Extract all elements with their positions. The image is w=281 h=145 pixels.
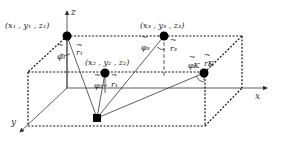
r-3-label: r₃ xyxy=(170,44,177,53)
r-1-label: r₁ xyxy=(76,48,83,57)
point-3 xyxy=(160,32,169,41)
point-3-label: (x₃ , y₃ , z₃) xyxy=(140,21,184,30)
x-axis-label: x xyxy=(255,91,260,101)
y-axis-label: y xyxy=(10,117,17,127)
r-k-label: rΚ xyxy=(204,59,215,68)
point-1 xyxy=(63,32,72,41)
phi-1-label: φ₁ xyxy=(57,52,66,61)
source-square xyxy=(93,114,101,122)
point-2 xyxy=(101,69,110,78)
rays xyxy=(67,36,204,118)
phi-3-label: φ₃ xyxy=(141,43,150,52)
tilde-icon: ~ xyxy=(57,41,64,50)
z-axis-label: z xyxy=(70,7,76,17)
point-1-label: (x₁ , y₁ , z₁) xyxy=(5,21,49,30)
3d-localization-diagram: z x y (x₁ , y₁ , z₁) (x₂ , y₂ , z₂) (x₃ … xyxy=(0,0,281,145)
phi-k-label: φΚ xyxy=(188,61,201,70)
tilde-icon: ~ xyxy=(111,71,118,80)
point-2-label: (x₂ , y₂ , z₂) xyxy=(85,58,129,67)
point-k xyxy=(200,69,209,78)
tilde-icon: ~ xyxy=(141,33,148,42)
phi-2-label: φ₂ xyxy=(94,81,103,90)
r-2-label: r₁ xyxy=(111,80,118,89)
tilde-icon: ~ xyxy=(94,71,101,80)
